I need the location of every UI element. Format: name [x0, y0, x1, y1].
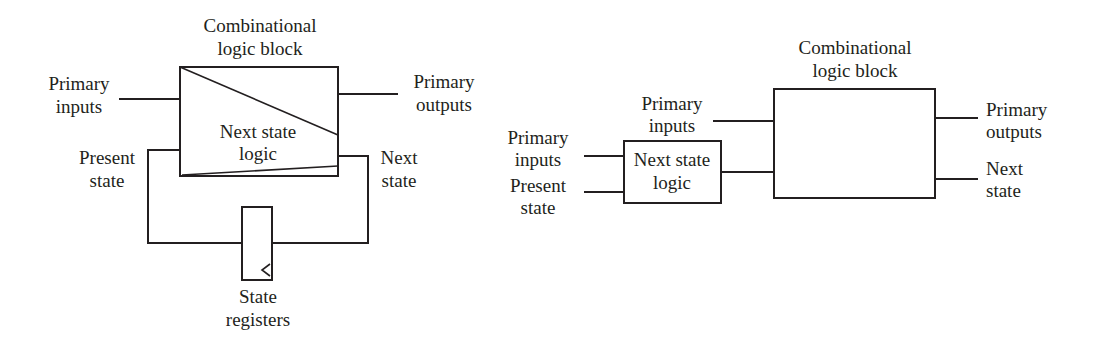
right-primary-outputs-label-line2: outputs: [986, 121, 1042, 142]
left-state-registers-label-line2: registers: [226, 309, 290, 330]
left-state-register: [242, 207, 272, 280]
left-comb-block-label-line2: logic block: [218, 38, 303, 59]
right-next-state-logic-label-line1: Next state: [634, 149, 711, 170]
right-primary-inputs-top-label-line1: Primary: [641, 93, 703, 114]
left-next-state-label-line2: state: [382, 170, 417, 191]
right-present-state-label-line2: state: [521, 197, 556, 218]
left-diagram: Combinational logic block Next state log…: [48, 15, 475, 330]
left-primary-inputs-label-line1: Primary: [48, 73, 110, 94]
right-present-state-label-line1: Present: [510, 175, 567, 196]
left-next-state-label-line1: Next: [381, 147, 419, 168]
left-next-state-logic-label-line1: Next state: [220, 121, 297, 142]
right-next-state-label-line2: state: [986, 180, 1021, 201]
left-state-registers-label-line1: State: [239, 286, 277, 307]
left-primary-inputs-label-line2: inputs: [56, 96, 102, 117]
left-primary-outputs-label-line1: Primary: [413, 71, 475, 92]
left-comb-block-label-line1: Combinational: [204, 15, 317, 36]
right-comb-block-label-line2: logic block: [813, 60, 898, 81]
right-comb-logic-block: [774, 89, 935, 198]
right-diagram: Combinational logic block Primary inputs…: [507, 37, 1047, 218]
left-primary-outputs-label-line2: outputs: [416, 94, 472, 115]
left-present-state-label-line2: state: [90, 170, 125, 191]
right-next-state-logic-label-line2: logic: [653, 172, 691, 193]
right-comb-block-label-line1: Combinational: [799, 37, 912, 58]
left-next-state-logic-label-line2: logic: [239, 143, 277, 164]
diagram-canvas: Combinational logic block Next state log…: [0, 0, 1102, 347]
right-next-state-label-line1: Next: [986, 158, 1024, 179]
left-present-state-label-line1: Present: [79, 147, 136, 168]
right-primary-inputs-left-label-line2: inputs: [515, 149, 561, 170]
right-primary-inputs-top-label-line2: inputs: [649, 115, 695, 136]
right-primary-inputs-left-label-line1: Primary: [507, 127, 569, 148]
right-primary-outputs-label-line1: Primary: [986, 99, 1048, 120]
